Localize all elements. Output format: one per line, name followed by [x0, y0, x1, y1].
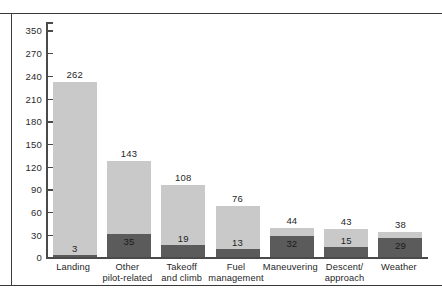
bar-lower-label: 29: [378, 240, 422, 251]
x-category-label-line: Weather: [364, 262, 434, 273]
page-rule-top: [0, 13, 442, 14]
bar-segment-lower[interactable]: [324, 247, 368, 257]
y-tick-label: 150: [26, 138, 42, 149]
bar-total-label: 44: [270, 215, 314, 226]
page-rule-left: [11, 13, 12, 286]
bar-group[interactable]: 3829: [378, 232, 422, 258]
bar-lower-label: 35: [107, 236, 151, 247]
x-category-label: Weather: [364, 262, 434, 273]
bar-total-label: 43: [324, 216, 368, 227]
bar-group[interactable]: 7613: [216, 206, 260, 257]
x-axis-category-labels: LandingOtherpilot-relatedTakeoffand clim…: [46, 262, 428, 286]
bar-total-label: 143: [107, 148, 151, 159]
x-category-label-line: approach: [309, 273, 379, 284]
bar-group[interactable]: 10819: [161, 185, 205, 258]
bar-total-label: 262: [53, 69, 97, 80]
bar-group[interactable]: 4432: [270, 228, 314, 258]
bar-group[interactable]: 14335: [107, 161, 151, 257]
y-tick-label: 240: [26, 70, 42, 81]
bar-segment-lower[interactable]: [53, 255, 97, 257]
x-category-label-line: management: [201, 273, 271, 284]
bar-lower-label: 15: [324, 235, 368, 246]
y-tick-label: 350: [26, 25, 42, 36]
bar-lower-label: 3: [53, 243, 97, 254]
plot-area: 0306090120150180210240270350 26231433510…: [46, 22, 428, 259]
bar-lower-label: 13: [216, 237, 260, 248]
y-tick-label: 120: [26, 161, 42, 172]
bar-series-container: 262314335108197613443243153829: [48, 22, 428, 257]
y-tick-label: 90: [31, 184, 42, 195]
y-tick-label: 270: [26, 48, 42, 59]
bar-segment-lower[interactable]: [216, 249, 260, 258]
bar-total-label: 108: [161, 172, 205, 183]
bar-group[interactable]: 2623: [53, 82, 97, 258]
y-tick: 0: [47, 257, 53, 258]
bar-group[interactable]: 4315: [324, 229, 368, 258]
chart-page: 0306090120150180210240270350 26231433510…: [0, 0, 442, 297]
bar-total-label: 76: [216, 193, 260, 204]
y-tick-label: 60: [31, 207, 42, 218]
x-axis-line: [46, 257, 428, 259]
bar-segment-lower[interactable]: [161, 245, 205, 258]
y-tick-label: 30: [31, 229, 42, 240]
bar-total-label: 38: [378, 219, 422, 230]
bar-segment-upper[interactable]: [53, 82, 97, 258]
bar-lower-label: 32: [270, 238, 314, 249]
y-tick-label: 210: [26, 93, 42, 104]
y-tick-label: 180: [26, 116, 42, 127]
bar-lower-label: 19: [161, 233, 205, 244]
